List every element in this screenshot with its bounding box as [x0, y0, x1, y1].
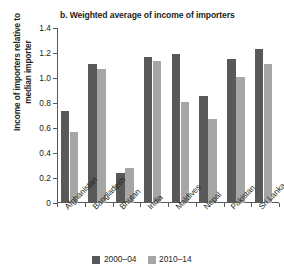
bar — [264, 64, 273, 203]
bar — [97, 69, 106, 203]
legend-item[interactable]: 2000–04 — [92, 255, 136, 264]
bar — [61, 111, 70, 204]
y-axis-title-text: Income of importers relative to median i… — [12, 13, 34, 131]
bar — [236, 77, 245, 203]
y-axis-tick-label: 0.4 — [39, 148, 51, 158]
chart-title: b. Weighted average of income of importe… — [60, 10, 280, 20]
bar — [172, 54, 181, 203]
y-axis-tick-label: 0 — [46, 198, 51, 208]
y-axis-tick-label: 0.2 — [39, 173, 51, 183]
y-axis-tick-label: 0.8 — [39, 98, 51, 108]
bar-group — [168, 28, 196, 203]
chart-legend: 2000–042010–14 — [0, 255, 284, 264]
chart-figure: b. Weighted average of income of importe… — [0, 0, 284, 276]
bar — [153, 61, 162, 204]
bar — [227, 59, 236, 203]
bar-group — [140, 28, 168, 203]
y-axis-title: Income of importers relative to median i… — [6, 0, 40, 157]
bar-group — [113, 28, 141, 203]
y-axis-tick-label: 0.6 — [39, 123, 51, 133]
y-axis-tick-label: 1.0 — [39, 73, 51, 83]
y-axis-tick-label: 1.2 — [39, 48, 51, 58]
y-axis-tick-label: 1.4 — [39, 23, 51, 33]
bar-group — [224, 28, 252, 203]
bar-group — [196, 28, 224, 203]
legend-swatch — [148, 256, 156, 264]
bar — [144, 57, 153, 203]
bar-group — [57, 28, 85, 203]
legend-item[interactable]: 2010–14 — [148, 255, 192, 264]
legend-label: 2000–04 — [104, 255, 137, 264]
bar-group — [85, 28, 113, 203]
bar — [181, 102, 190, 203]
legend-swatch — [92, 256, 100, 264]
x-axis-tick-labels: AfghanistanBangladeshBhutanIndiaMaldives… — [57, 205, 283, 251]
bar — [255, 49, 264, 203]
legend-label: 2010–14 — [159, 255, 192, 264]
bar-group — [251, 28, 279, 203]
